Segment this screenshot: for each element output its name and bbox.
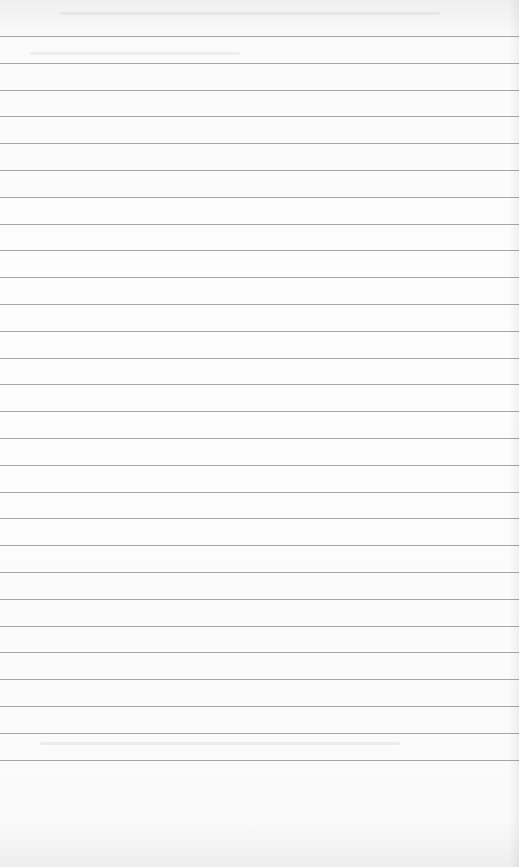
ruled-line bbox=[0, 304, 519, 305]
ruled-line bbox=[0, 277, 519, 278]
page-edge-shadow bbox=[509, 0, 519, 867]
faint-show-through-mark bbox=[30, 52, 240, 55]
ruled-line bbox=[0, 411, 519, 412]
ruled-line bbox=[0, 116, 519, 117]
ruled-line bbox=[0, 438, 519, 439]
ruled-line bbox=[0, 36, 519, 37]
faint-show-through-mark bbox=[60, 12, 440, 15]
ruled-line bbox=[0, 170, 519, 171]
faint-show-through-mark bbox=[40, 742, 400, 745]
ruled-line bbox=[0, 652, 519, 653]
ruled-line bbox=[0, 626, 519, 627]
ruled-line bbox=[0, 760, 519, 761]
ruled-line bbox=[0, 331, 519, 332]
ruled-line bbox=[0, 679, 519, 680]
ruled-line bbox=[0, 63, 519, 64]
ruled-paper bbox=[0, 0, 519, 867]
ruled-line bbox=[0, 358, 519, 359]
ruled-line bbox=[0, 143, 519, 144]
ruled-line bbox=[0, 572, 519, 573]
ruled-line bbox=[0, 733, 519, 734]
ruled-line bbox=[0, 706, 519, 707]
ruled-line bbox=[0, 465, 519, 466]
ruled-line bbox=[0, 90, 519, 91]
ruled-line bbox=[0, 492, 519, 493]
ruled-line bbox=[0, 599, 519, 600]
ruled-line bbox=[0, 545, 519, 546]
ruled-line bbox=[0, 384, 519, 385]
ruled-line bbox=[0, 518, 519, 519]
ruled-line bbox=[0, 197, 519, 198]
ruled-line bbox=[0, 224, 519, 225]
ruled-line bbox=[0, 250, 519, 251]
